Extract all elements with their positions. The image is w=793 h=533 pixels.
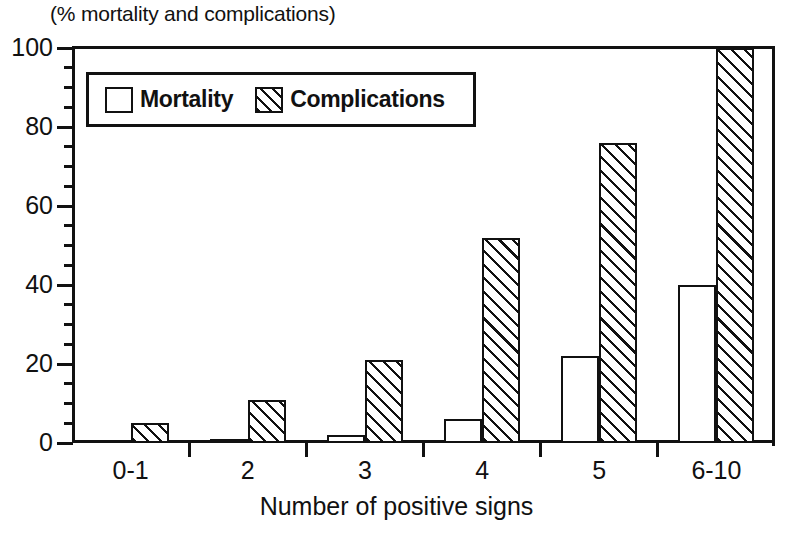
- chart-figure: (% mortality and complications) 02040608…: [0, 0, 793, 533]
- x-axis-tick-label: 2: [188, 458, 308, 483]
- x-axis-tick: [656, 443, 659, 457]
- y-axis-minor-tick: [64, 86, 73, 89]
- y-axis-minor-tick: [64, 323, 73, 326]
- y-axis-minor-tick: [64, 165, 73, 168]
- x-axis-tick: [188, 443, 191, 457]
- y-axis-minor-tick: [64, 106, 73, 109]
- legend-entry-complications: Complications: [255, 86, 445, 113]
- bar-mortality-4: [444, 419, 482, 443]
- bar-complications-2: [248, 400, 286, 443]
- x-axis-tick-label: 0-1: [71, 458, 191, 483]
- y-axis-minor-tick: [64, 343, 73, 346]
- x-axis-tick: [539, 443, 542, 457]
- bar-mortality-2: [210, 439, 248, 443]
- y-axis-major-tick: [57, 205, 73, 208]
- y-axis-minor-tick: [64, 402, 73, 405]
- legend-swatch-complications-icon: [255, 87, 283, 113]
- bar-complications-6-10: [716, 48, 754, 443]
- legend-label-complications: Complications: [290, 86, 445, 113]
- bar-complications-4: [482, 238, 520, 443]
- y-axis-major-tick: [57, 363, 73, 366]
- y-axis-tick-label: 60: [0, 193, 53, 218]
- y-axis-tick-label: 20: [0, 351, 53, 376]
- x-axis-tick-label: 4: [422, 458, 542, 483]
- x-axis-tick-label: 5: [539, 458, 659, 483]
- y-axis-major-tick: [57, 47, 73, 50]
- chart-title: (% mortality and complications): [50, 2, 336, 26]
- legend-swatch-mortality-icon: [105, 87, 133, 113]
- legend-entry-mortality: Mortality: [105, 86, 233, 113]
- bar-complications-5: [599, 143, 637, 443]
- y-axis-minor-tick: [64, 66, 73, 69]
- y-axis-tick-label: 0: [0, 430, 53, 455]
- x-axis-tick-label: 6-10: [656, 458, 776, 483]
- y-axis-minor-tick: [64, 185, 73, 188]
- y-axis-tick-label: 40: [0, 272, 53, 297]
- y-axis-major-tick: [57, 126, 73, 129]
- y-axis-minor-tick: [64, 382, 73, 385]
- bar-complications-0-1: [131, 423, 169, 443]
- x-axis-tick-label: 3: [305, 458, 425, 483]
- y-axis-minor-tick: [64, 244, 73, 247]
- y-axis-major-tick: [57, 442, 73, 445]
- bar-mortality-5: [561, 356, 599, 443]
- y-axis-tick-label: 80: [0, 114, 53, 139]
- x-axis-title: Number of positive signs: [0, 492, 793, 521]
- y-axis-minor-tick: [64, 264, 73, 267]
- bar-complications-3: [365, 360, 403, 443]
- y-axis-minor-tick: [64, 422, 73, 425]
- legend: Mortality Complications: [86, 72, 476, 127]
- x-axis-tick: [305, 443, 308, 457]
- bar-mortality-6-10: [678, 285, 716, 443]
- bar-mortality-3: [327, 435, 365, 443]
- y-axis-minor-tick: [64, 303, 73, 306]
- y-axis-tick-label: 100: [0, 35, 53, 60]
- legend-label-mortality: Mortality: [140, 86, 233, 113]
- y-axis-minor-tick: [64, 224, 73, 227]
- y-axis-minor-tick: [64, 145, 73, 148]
- x-axis-tick: [422, 443, 425, 457]
- y-axis-major-tick: [57, 284, 73, 287]
